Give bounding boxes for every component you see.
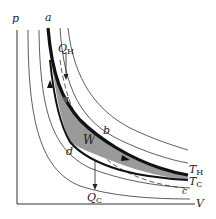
heat-in-subscript: H bbox=[67, 47, 74, 56]
point-d-label: d bbox=[66, 145, 73, 158]
heat-out-symbol: Q bbox=[87, 191, 96, 204]
point-b-label: b bbox=[103, 124, 110, 137]
y-axis-label: p bbox=[12, 12, 19, 25]
heat-out-arrowhead-icon bbox=[93, 184, 98, 190]
heat-in-symbol: Q bbox=[58, 42, 67, 55]
work-label: W bbox=[83, 133, 97, 147]
heat-out-label: QC bbox=[87, 191, 102, 205]
hot-isotherm-subscript: H bbox=[196, 168, 203, 177]
point-c-label: c bbox=[182, 186, 187, 196]
x-axis-label: V bbox=[196, 197, 205, 210]
cold-isotherm-subscript: C bbox=[196, 180, 202, 189]
cold-isotherm-label: TC bbox=[189, 175, 202, 189]
carnot-pv-diagram: p V a b c d W QH QC TH TC bbox=[0, 0, 216, 219]
heat-in-label: QH bbox=[58, 42, 74, 56]
heat-out-subscript: C bbox=[96, 196, 102, 205]
point-a-label: a bbox=[45, 11, 52, 24]
